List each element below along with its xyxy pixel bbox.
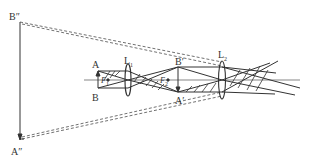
dashed-extension-rays [20,22,222,139]
label-a: A [92,60,99,70]
label-b-prime: B′ [175,57,184,67]
label-b: B [92,93,99,103]
label-l1: L1 [124,56,133,70]
label-a-double-prime: A″ [11,147,22,157]
hatched-beam-2 [186,83,216,92]
label-l2: L2 [218,50,227,64]
label-b-double-prime: B″ [9,12,20,22]
optics-diagram [0,0,315,167]
label-f2: F2 [160,76,168,89]
label-f1: F1 [101,76,109,89]
label-a-prime: A′ [175,96,184,106]
